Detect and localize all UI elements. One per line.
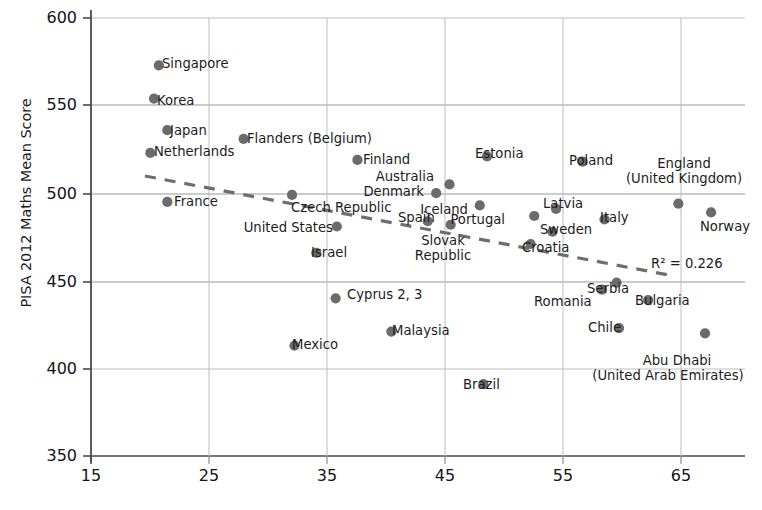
r-squared-annotation: R² = 0.226 [651,256,723,271]
point-label-abudhabi-line2: (United Arab Emirates) [578,368,758,383]
plot-canvas [0,0,762,510]
point-label-bulgaria: Bulgaria [635,293,690,308]
data-point [332,221,342,231]
data-point [162,197,172,207]
x-tick-35: 35 [305,466,349,485]
data-point [700,328,710,338]
scatter-chart-figure: PISA 2012 Maths Mean Score 600 550 500 4… [0,0,762,510]
point-label-slovak-line2: Republic [383,248,503,263]
point-label-sweden: Sweden [540,222,592,237]
x-tick-65: 65 [659,466,703,485]
x-axis-ticks [91,456,681,464]
point-label-japan: Japan [170,123,207,138]
point-label-mexico: Mexico [292,337,338,352]
point-label-italy: Italy [600,210,629,225]
point-label-netherlands: Netherlands [154,144,234,159]
x-tick-25: 25 [187,466,231,485]
point-label-serbia: Serbia [587,281,629,296]
data-point [352,155,362,165]
point-label-cyprus: Cyprus 2, 3 [347,287,422,302]
y-tick-400: 400 [31,359,77,378]
point-label-brazil: Brazil [463,377,500,392]
x-tick-15: 15 [69,466,113,485]
y-tick-350: 350 [31,446,77,465]
point-label-chile: Chile [588,320,621,335]
data-point [444,179,454,189]
point-label-romania: Romania [534,294,592,309]
point-label-finland: Finland [363,152,410,167]
y-tick-500: 500 [31,184,77,203]
data-point [475,200,485,210]
y-axis-spine [83,10,91,462]
point-label-slovak-line1: Slovak [383,233,503,248]
point-label-korea: Korea [157,93,194,108]
point-label-united-states: United States [158,220,333,235]
y-tick-550: 550 [31,95,77,114]
data-point [287,190,297,200]
point-label-denmark: Denmark [300,184,424,199]
data-point [431,188,441,198]
point-label-malaysia: Malaysia [392,323,450,338]
point-label-estonia: Estonia [475,146,524,161]
point-label-australia: Australia [310,169,434,184]
point-label-england-line1: England [609,156,759,171]
data-point [529,211,539,221]
point-label-latvia: Latvia [543,196,583,211]
x-tick-45: 45 [423,466,467,485]
point-label-norway: Norway [700,219,750,234]
point-label-france: France [174,194,218,209]
data-point [331,293,341,303]
y-tick-450: 450 [31,272,77,291]
point-label-singapore: Singapore [162,56,229,71]
x-tick-55: 55 [541,466,585,485]
caption-strip [0,492,762,510]
point-label-poland: Poland [569,153,613,168]
point-label-portugal: Portugal [399,212,505,227]
point-label-croatia: Croatia [522,240,569,255]
point-label-abudhabi-line1: Abu Dhabi [602,353,752,368]
point-label-flanders: Flanders (Belgium) [247,131,372,146]
data-point [673,199,683,209]
point-label-israel: Israel [311,245,347,260]
y-tick-600: 600 [31,8,77,27]
point-label-england-line2: (United Kingdom) [609,171,759,186]
data-point [706,207,716,217]
